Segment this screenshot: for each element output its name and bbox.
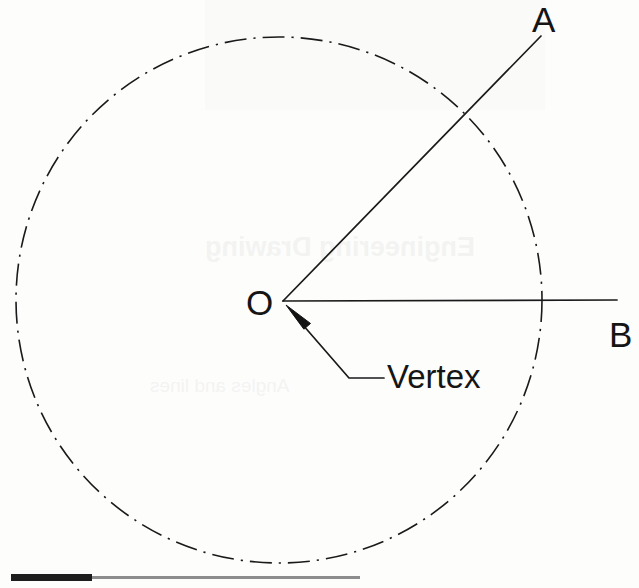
ray-ob bbox=[283, 300, 617, 301]
angle-figure-svg bbox=[0, 0, 639, 588]
label-point-o: O bbox=[246, 285, 273, 320]
vertex-leader-line bbox=[296, 317, 384, 378]
scale-bar bbox=[11, 574, 360, 581]
label-point-b: B bbox=[609, 317, 632, 352]
label-point-a: A bbox=[532, 2, 555, 37]
vertex-arrowhead bbox=[286, 305, 311, 329]
ray-oa bbox=[283, 36, 541, 301]
label-vertex: Vertex bbox=[387, 360, 481, 393]
scale-bar-track bbox=[92, 576, 360, 579]
scale-bar-fill bbox=[11, 574, 92, 581]
diagram-canvas: Engineering Drawing Angles and lines A B… bbox=[0, 0, 639, 588]
